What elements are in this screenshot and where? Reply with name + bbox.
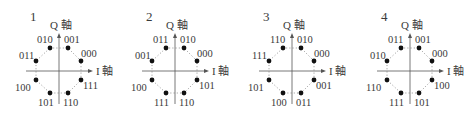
constellation-plot: 1 Q 軸 I 軸 010 001 011 000 100 [0,0,118,117]
q-axis-label: Q 軸 [401,18,423,31]
q-axis-label: Q 軸 [283,18,305,31]
symbol-label: 001 [64,34,80,45]
symbol-label: 100 [131,82,147,93]
symbol-label: 001 [135,50,151,61]
constellation-plot: 4 Q 軸 I 軸 011 001 010 000 110 [351,0,469,117]
symbol-label: 101 [38,97,54,108]
constellation-plot: 3 Q 軸 I 軸 110 010 111 000 101 [233,0,351,117]
constellation-diagram-3: 3 Q 軸 I 軸 110 010 111 000 101 [233,0,351,117]
constellation-diagram-2: 2 Q 軸 I 軸 011 010 001 000 100 [116,0,234,117]
i-axis-arrow-icon [439,69,444,73]
unit-circle-dotted [36,48,81,93]
symbol-label: 000 [197,48,213,59]
i-axis-arrow-icon [204,69,209,73]
symbol-label: 111 [389,97,404,108]
symbol-label: 010 [37,34,53,45]
i-axis-label: I 軸 [329,64,346,77]
diagram-number: 4 [381,9,388,24]
constellation-diagram-4: 4 Q 軸 I 軸 011 001 010 000 110 [351,0,469,117]
i-axis-label: I 軸 [212,64,229,77]
q-axis-label: Q 軸 [50,18,72,31]
q-axis-arrow-icon [57,33,61,38]
symbol-points [385,46,435,96]
q-axis-arrow-icon [173,33,177,38]
unit-circle-dotted [387,48,432,93]
symbol-label: 100 [15,82,31,93]
symbol-label: 100 [271,97,287,108]
symbol-label: 010 [297,34,313,45]
symbol-label: 111 [83,80,98,91]
symbol-label: 110 [63,97,78,108]
diagram-number: 3 [263,9,270,24]
i-axis-arrow-icon [88,69,93,73]
unit-circle-dotted [269,48,314,93]
constellation-diagram-1: 1 Q 軸 I 軸 010 001 011 000 100 [0,0,118,117]
i-axis-label: I 軸 [96,64,113,77]
symbol-label: 011 [388,34,403,45]
symbol-label: 001 [316,80,332,91]
constellation-plot: 2 Q 軸 I 軸 011 010 001 000 100 [116,0,234,117]
i-axis-arrow-icon [321,69,326,73]
symbol-label: 111 [154,97,169,108]
symbol-label: 000 [81,48,97,59]
symbol-label: 101 [414,97,430,108]
symbol-label: 011 [19,50,34,61]
q-axis-arrow-icon [408,33,412,38]
unit-circle-dotted [152,48,197,93]
symbol-label: 110 [270,34,285,45]
diagram-number: 2 [146,9,153,24]
symbol-label: 010 [180,34,196,45]
symbol-label: 010 [370,50,386,61]
q-axis-arrow-icon [290,33,294,38]
symbol-label: 011 [296,97,311,108]
symbol-points [34,46,84,96]
symbol-points [267,46,317,96]
symbol-label: 111 [252,50,267,61]
symbol-label: 110 [366,82,381,93]
symbol-label: 100 [434,80,450,91]
q-axis-label: Q 軸 [166,18,188,31]
symbol-label: 011 [153,34,168,45]
symbol-points [150,46,200,96]
symbol-label: 000 [314,48,330,59]
symbol-label: 101 [248,82,264,93]
symbol-label: 001 [415,34,431,45]
symbol-label: 000 [432,48,448,59]
symbol-label: 101 [199,80,215,91]
i-axis-label: I 軸 [447,64,464,77]
diagram-number: 1 [30,9,37,24]
symbol-label: 110 [179,97,194,108]
